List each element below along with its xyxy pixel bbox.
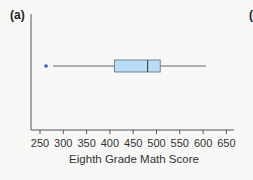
boxplot — [44, 60, 206, 72]
x-tick-label: 600 — [194, 137, 212, 149]
x-tick-label: 650 — [217, 137, 235, 149]
iqr-box — [115, 60, 161, 72]
x-tick-label: 350 — [77, 137, 95, 149]
boxplot-chart: 250300350400450500550600650 Eighth Grade… — [0, 0, 253, 180]
x-tick-label: 250 — [31, 137, 49, 149]
axes: 250300350400450500550600650 — [31, 14, 236, 149]
x-tick-label: 400 — [101, 137, 119, 149]
outlier-point — [44, 64, 48, 68]
x-tick-label: 550 — [171, 137, 189, 149]
x-tick-label: 450 — [124, 137, 142, 149]
x-tick-label: 300 — [54, 137, 72, 149]
x-tick-label: 500 — [147, 137, 165, 149]
x-axis-title: Eighth Grade Math Score — [69, 153, 199, 165]
